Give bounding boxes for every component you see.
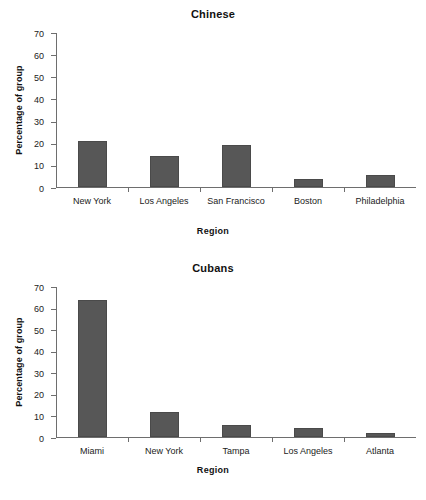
y-axis-tick: 60 (51, 55, 56, 56)
y-axis-tick-label: 20 (34, 390, 44, 400)
x-axis-line (56, 187, 416, 188)
y-axis-tick: 50 (51, 77, 56, 78)
plot-area-cubans: 010203040506070MiamiNew YorkTampaLos Ang… (56, 287, 416, 438)
y-axis-tick-label: 60 (34, 51, 44, 61)
x-axis-category-label: Philadelphia (355, 196, 404, 206)
x-axis-category-label: Los Angeles (283, 446, 332, 456)
bar (150, 412, 179, 437)
chart-chinese: Chinese Percentage of group 010203040506… (0, 0, 426, 250)
y-axis-line (56, 287, 57, 438)
bar (150, 156, 179, 187)
chart-title-chinese: Chinese (0, 8, 426, 20)
plot-area-chinese: 010203040506070New YorkLos AngelesSan Fr… (56, 33, 416, 188)
y-axis-tick-label: 70 (34, 29, 44, 39)
y-axis-tick: 0 (51, 188, 56, 189)
y-axis-tick: 50 (51, 330, 56, 331)
y-axis-tick: 30 (51, 373, 56, 374)
chart-cubans: Cubans Percentage of group 0102030405060… (0, 250, 426, 500)
bar (366, 175, 395, 187)
y-axis-line (56, 33, 57, 188)
x-axis-category-label: Atlanta (366, 446, 394, 456)
x-axis-category-label: Miami (80, 446, 104, 456)
x-axis-tick (344, 188, 345, 192)
x-axis-tick (272, 188, 273, 192)
x-axis-line (56, 437, 416, 438)
y-axis-tick: 60 (51, 309, 56, 310)
y-axis-tick: 40 (51, 352, 56, 353)
bar (294, 428, 323, 437)
y-axis-tick: 70 (51, 287, 56, 288)
bar (222, 425, 251, 437)
x-axis-category-label: Los Angeles (139, 196, 188, 206)
x-axis-category-label: Boston (294, 196, 322, 206)
x-axis-tick (344, 438, 345, 442)
chart-title-cubans: Cubans (0, 262, 426, 274)
y-axis-label-cubans: Percentage of group (14, 312, 24, 412)
bar (366, 433, 395, 437)
y-axis-tick-label: 50 (34, 73, 44, 83)
x-axis-tick (200, 188, 201, 192)
y-axis-label-chinese: Percentage of group (14, 60, 24, 160)
bar (294, 179, 323, 187)
y-axis-tick-label: 40 (34, 347, 44, 357)
x-axis-tick (128, 188, 129, 192)
y-axis-tick: 20 (51, 144, 56, 145)
bar (78, 300, 107, 437)
y-axis-tick-label: 50 (34, 326, 44, 336)
y-axis-tick: 0 (51, 438, 56, 439)
x-axis-tick (272, 438, 273, 442)
y-axis-tick-label: 20 (34, 139, 44, 149)
y-axis-tick-label: 30 (34, 369, 44, 379)
bar (222, 145, 251, 187)
y-axis-tick-label: 10 (34, 412, 44, 422)
y-axis-tick-label: 0 (39, 184, 44, 194)
y-axis-tick-label: 70 (34, 283, 44, 293)
x-axis-tick (200, 438, 201, 442)
y-axis-tick-label: 40 (34, 95, 44, 105)
x-axis-category-label: New York (145, 446, 183, 456)
y-axis-tick-label: 0 (39, 434, 44, 444)
y-axis-tick: 10 (51, 416, 56, 417)
y-axis-tick-label: 10 (34, 161, 44, 171)
x-axis-label-chinese: Region (0, 226, 426, 236)
y-axis-tick: 10 (51, 166, 56, 167)
y-axis-tick-label: 60 (34, 304, 44, 314)
y-axis-tick: 40 (51, 99, 56, 100)
x-axis-tick (128, 438, 129, 442)
y-axis-tick: 70 (51, 33, 56, 34)
y-axis-tick-label: 30 (34, 117, 44, 127)
x-axis-category-label: San Francisco (207, 196, 265, 206)
x-axis-category-label: Tampa (222, 446, 249, 456)
x-axis-label-cubans: Region (0, 465, 426, 475)
y-axis-tick: 20 (51, 395, 56, 396)
x-axis-category-label: New York (73, 196, 111, 206)
y-axis-tick: 30 (51, 122, 56, 123)
bar (78, 141, 107, 188)
